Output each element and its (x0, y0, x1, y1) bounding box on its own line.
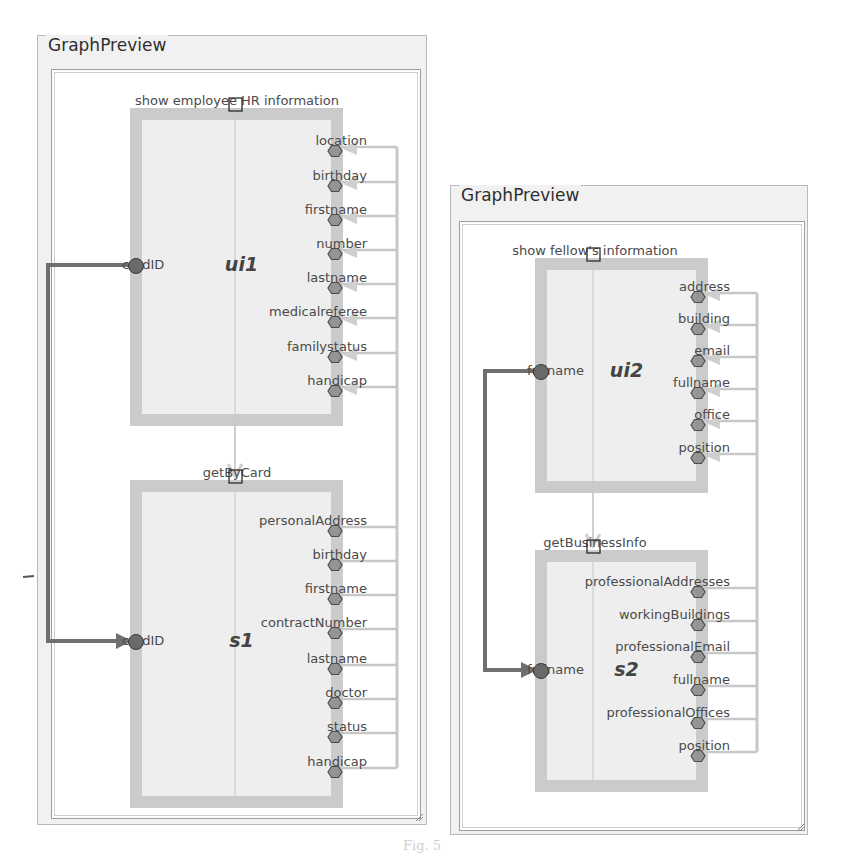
output-port-hexagon-icon[interactable] (328, 767, 342, 778)
node-name: ui2 (610, 359, 643, 381)
output-port-hexagon-icon[interactable] (328, 146, 342, 157)
output-port-hexagon-icon[interactable] (691, 685, 705, 696)
output-port-label: professionalAddresses (585, 574, 731, 589)
output-port-label: familystatus (287, 339, 367, 354)
input-mapping-edge (485, 371, 541, 670)
output-port-hexagon-icon[interactable] (328, 317, 342, 328)
output-port-hexagon-icon[interactable] (328, 352, 342, 363)
output-port-label: number (316, 236, 367, 251)
output-port-label: position (679, 440, 731, 455)
output-port-hexagon-icon[interactable] (328, 698, 342, 709)
output-port-hexagon-icon[interactable] (691, 388, 705, 399)
output-port-label: medicalreferee (269, 304, 367, 319)
output-port-label: contractNumber (261, 615, 368, 630)
operation-label: show employee HR information (135, 93, 339, 108)
figure-caption: Fig. 5 (0, 838, 844, 853)
output-port-hexagon-icon[interactable] (691, 652, 705, 663)
output-port-label: address (679, 279, 730, 294)
output-port-hexagon-icon[interactable] (328, 594, 342, 605)
output-port-hexagon-icon[interactable] (691, 324, 705, 335)
graph-diagram: ui1s1locationbirthdayfirstnamenumberlast… (0, 0, 844, 857)
output-port-hexagon-icon[interactable] (691, 587, 705, 598)
node-name: ui1 (225, 253, 258, 275)
output-port-hexagon-icon[interactable] (691, 620, 705, 631)
operation-label: getByCard (203, 465, 271, 480)
output-port-hexagon-icon[interactable] (691, 356, 705, 367)
output-port-hexagon-icon[interactable] (328, 560, 342, 571)
output-port-hexagon-icon[interactable] (691, 453, 705, 464)
output-port-hexagon-icon[interactable] (328, 215, 342, 226)
output-port-label: workingBuildings (619, 607, 730, 622)
input-port-circle-icon[interactable] (534, 365, 549, 380)
output-port-hexagon-icon[interactable] (328, 283, 342, 294)
node-name: s1 (229, 629, 254, 651)
output-port-label: personalAddress (259, 513, 367, 528)
output-port-hexagon-icon[interactable] (328, 732, 342, 743)
output-port-hexagon-icon[interactable] (691, 420, 705, 431)
output-port-hexagon-icon[interactable] (691, 718, 705, 729)
operation-label: getBusinessInfo (543, 535, 646, 550)
margin-mark (23, 576, 34, 577)
output-port-label: position (679, 738, 731, 753)
output-port-hexagon-icon[interactable] (328, 181, 342, 192)
output-port-hexagon-icon[interactable] (328, 386, 342, 397)
input-port-circle-icon[interactable] (129, 635, 144, 650)
output-port-label: birthday (313, 168, 368, 183)
input-port-circle-icon[interactable] (534, 664, 549, 679)
output-port-hexagon-icon[interactable] (328, 664, 342, 675)
output-port-label: professionalEmail (615, 639, 730, 654)
output-port-label: location (315, 133, 367, 148)
output-port-hexagon-icon[interactable] (328, 249, 342, 260)
output-port-label: professionalOffices (607, 705, 731, 720)
input-port-circle-icon[interactable] (129, 259, 144, 274)
output-port-label: building (678, 311, 730, 326)
output-port-hexagon-icon[interactable] (328, 628, 342, 639)
node-name: s2 (614, 658, 639, 680)
output-port-hexagon-icon[interactable] (328, 526, 342, 537)
output-port-hexagon-icon[interactable] (691, 751, 705, 762)
operation-label: show fellow's information (512, 243, 678, 258)
output-port-hexagon-icon[interactable] (691, 292, 705, 303)
input-mapping-edge (48, 265, 136, 641)
output-port-label: birthday (313, 547, 368, 562)
